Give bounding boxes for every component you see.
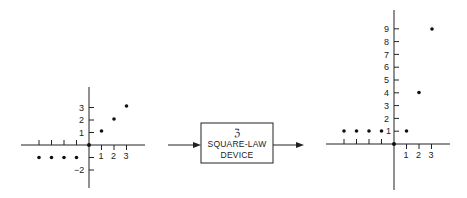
output-x-label-1: 1	[404, 150, 409, 160]
output-y-label-8: 8	[384, 37, 389, 47]
output-y-label-5: 5	[384, 75, 389, 85]
input-point	[87, 143, 91, 147]
input-point	[75, 156, 79, 160]
input-point	[112, 117, 116, 121]
input-x-label-2: 2	[111, 151, 116, 161]
output-point	[355, 129, 359, 133]
output-y-label-4: 4	[384, 88, 389, 98]
output-y-label-9: 9	[384, 24, 389, 34]
input-point	[125, 104, 129, 108]
output-y-label-7: 7	[384, 50, 389, 60]
output-x-label-3: 3	[429, 150, 434, 160]
output-point	[342, 129, 346, 133]
input-y-label-1: 1	[79, 128, 84, 138]
output-point	[367, 129, 371, 133]
input-point	[62, 156, 66, 160]
output-point	[430, 27, 434, 31]
device-label-line1: SQUARE-LAW	[208, 139, 267, 149]
output-y-label-3: 3	[384, 101, 389, 111]
output-y-label-2: 2	[384, 114, 389, 124]
input-y-label-2: 2	[79, 115, 84, 125]
input-point	[37, 156, 41, 160]
output-y-label-6: 6	[384, 62, 389, 72]
output-point	[392, 142, 396, 146]
output-plot-labels: 1 2 3 9 8 7 6 5 4 3 2 1	[384, 24, 434, 160]
input-x-label-1: 1	[99, 151, 104, 161]
output-y-label-1: 1	[386, 126, 391, 136]
square-law-diagram: 1 2 3 3 2 1 −2 ℨ SQUARE-LAW DEVICE	[0, 0, 467, 198]
input-arrow	[168, 142, 201, 148]
input-plot-labels: 1 2 3 3 2 1 −2	[74, 103, 129, 176]
output-x-label-2: 2	[416, 150, 421, 160]
input-x-label-3: 3	[124, 151, 129, 161]
output-point	[380, 129, 384, 133]
input-y-label-neg2: −2	[74, 165, 84, 175]
device-label-line2: DEVICE	[221, 150, 254, 160]
output-point	[405, 129, 409, 133]
output-arrow	[273, 142, 304, 148]
input-y-label-3: 3	[79, 103, 84, 113]
device-symbol: ℨ	[234, 127, 240, 138]
input-point	[100, 129, 104, 133]
output-point	[417, 91, 421, 95]
input-point	[50, 156, 54, 160]
